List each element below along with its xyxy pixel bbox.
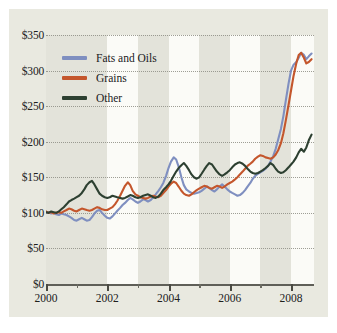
x-axis-major-tick — [107, 284, 109, 291]
y-axis-tick-label: $0 — [33, 278, 44, 290]
legend-color-swatch — [62, 96, 87, 100]
x-axis-tick-label: 2004 — [157, 292, 180, 304]
series-line — [46, 135, 312, 213]
x-axis-minor-tick — [138, 284, 140, 288]
y-axis-tick-label: $300 — [22, 65, 44, 77]
x-axis-line — [46, 284, 314, 286]
legend-label: Other — [96, 92, 122, 104]
legend-color-swatch — [62, 76, 87, 80]
x-axis-minor-tick — [260, 284, 262, 288]
chart-legend: Fats and OilsGrainsOther — [62, 50, 157, 110]
x-axis-tick-label: 2006 — [218, 292, 241, 304]
y-axis-labels: $0$50$100$150$200$250$300$350 — [0, 35, 44, 284]
x-axis-minor-tick — [77, 284, 79, 288]
x-axis-minor-tick — [199, 284, 201, 288]
y-axis-tick-label: $100 — [22, 207, 44, 219]
legend-entry[interactable]: Other — [62, 90, 157, 106]
y-axis-tick-label: $350 — [22, 29, 44, 41]
x-axis-major-tick — [169, 284, 171, 291]
x-axis-tick-label: 2008 — [280, 292, 303, 304]
x-axis-tick-label: 2000 — [35, 292, 58, 304]
legend-entry[interactable]: Fats and Oils — [62, 50, 157, 66]
legend-color-swatch — [62, 56, 87, 60]
legend-label: Fats and Oils — [96, 52, 157, 64]
y-axis-tick-label: $150 — [22, 171, 44, 183]
y-axis-tick-label: $250 — [22, 100, 44, 112]
y-axis-tick-label: $50 — [27, 242, 44, 254]
legend-label: Grains — [96, 72, 127, 84]
chart-figure: $0$50$100$150$200$250$300$350 2000200220… — [0, 0, 337, 333]
y-axis-tick-label: $200 — [22, 136, 44, 148]
legend-entry[interactable]: Grains — [62, 70, 157, 86]
x-axis-major-tick — [291, 284, 293, 291]
x-axis-major-tick — [230, 284, 232, 291]
x-axis-tick-label: 2002 — [96, 292, 119, 304]
x-axis-major-tick — [46, 284, 48, 291]
